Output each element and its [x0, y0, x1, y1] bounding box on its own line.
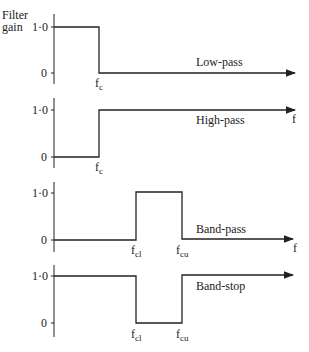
filter-diagram: Filter gain 1·0 0 fc Low-pass 1·0 0 fc H…	[0, 0, 309, 352]
tick-one: 1·0	[32, 103, 48, 117]
freq-axis-label: f	[292, 112, 296, 126]
tick-zero: 0	[41, 233, 47, 247]
panel-title: Band-stop	[196, 279, 245, 293]
tick-one: 1·0	[32, 20, 48, 34]
fcu-label: fcu	[176, 327, 189, 343]
fc-label: fc	[95, 76, 103, 92]
fcl-label: fcl	[131, 243, 142, 259]
axis-title-line2: gain	[2, 20, 23, 34]
panel-title: Band-pass	[196, 222, 246, 236]
tick-one: 1·0	[32, 186, 48, 200]
panel-low-pass: 1·0 0 fc Low-pass	[32, 14, 295, 92]
fc-label: fc	[95, 160, 103, 176]
fcl-label: fcl	[131, 327, 142, 343]
panel-band-stop: 1·0 0 fcl fcu Band-stop	[32, 265, 293, 343]
freq-axis-label: f	[293, 241, 297, 255]
tick-one: 1·0	[32, 269, 48, 283]
panel-title: Low-pass	[196, 55, 243, 69]
panel-band-pass: 1·0 0 fcl fcu Band-pass f	[32, 182, 297, 259]
panel-title: High-pass	[196, 113, 245, 127]
tick-zero: 0	[41, 150, 47, 164]
tick-zero: 0	[41, 316, 47, 330]
fcu-label: fcu	[176, 243, 189, 259]
panel-high-pass: 1·0 0 fc High-pass f	[32, 98, 296, 176]
tick-zero: 0	[41, 66, 47, 80]
